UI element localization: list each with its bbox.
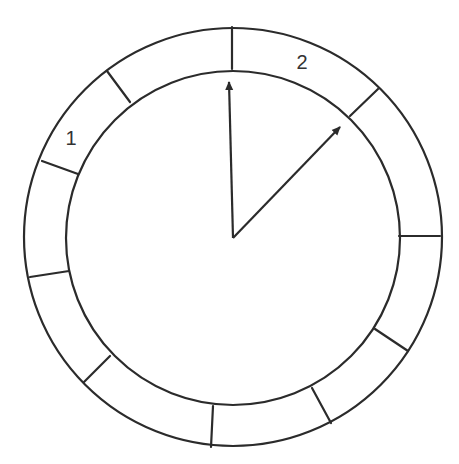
segment-divider xyxy=(375,329,408,351)
segment-divider xyxy=(84,356,110,382)
segment-label-1: 1 xyxy=(65,127,76,149)
segment-label-2: 2 xyxy=(296,51,307,73)
arrow-2-icon xyxy=(233,127,340,238)
segment-divider xyxy=(107,71,130,102)
segment-divider xyxy=(42,161,78,174)
segmented-dial-diagram: 1 2 xyxy=(0,0,459,464)
arrow-1-icon xyxy=(229,82,233,238)
segment-divider xyxy=(211,406,213,447)
segment-divider xyxy=(30,271,69,277)
segment-divider xyxy=(350,89,378,116)
segment-divider xyxy=(312,388,331,423)
hands xyxy=(229,82,340,238)
